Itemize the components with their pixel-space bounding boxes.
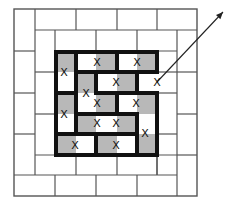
x-mark: X <box>112 139 120 152</box>
domino-grid-diagram: XXXXXXXXXXXXXX <box>0 0 234 204</box>
x-mark: X <box>112 76 120 89</box>
shaded-cell <box>117 72 137 93</box>
x-mark: X <box>82 87 90 100</box>
x-mark: X <box>71 139 79 152</box>
x-mark: X <box>93 97 101 110</box>
x-mark: X <box>93 117 101 130</box>
x-mark: X <box>141 127 149 140</box>
x-mark: X <box>133 56 141 69</box>
shaded-cell <box>137 93 157 114</box>
x-mark: X <box>112 117 120 130</box>
x-mark: X <box>60 66 68 79</box>
x-mark: X <box>153 76 161 89</box>
shaded-cell <box>117 114 137 134</box>
x-mark: X <box>132 97 140 110</box>
x-mark: X <box>60 108 68 121</box>
x-mark: X <box>93 56 101 69</box>
